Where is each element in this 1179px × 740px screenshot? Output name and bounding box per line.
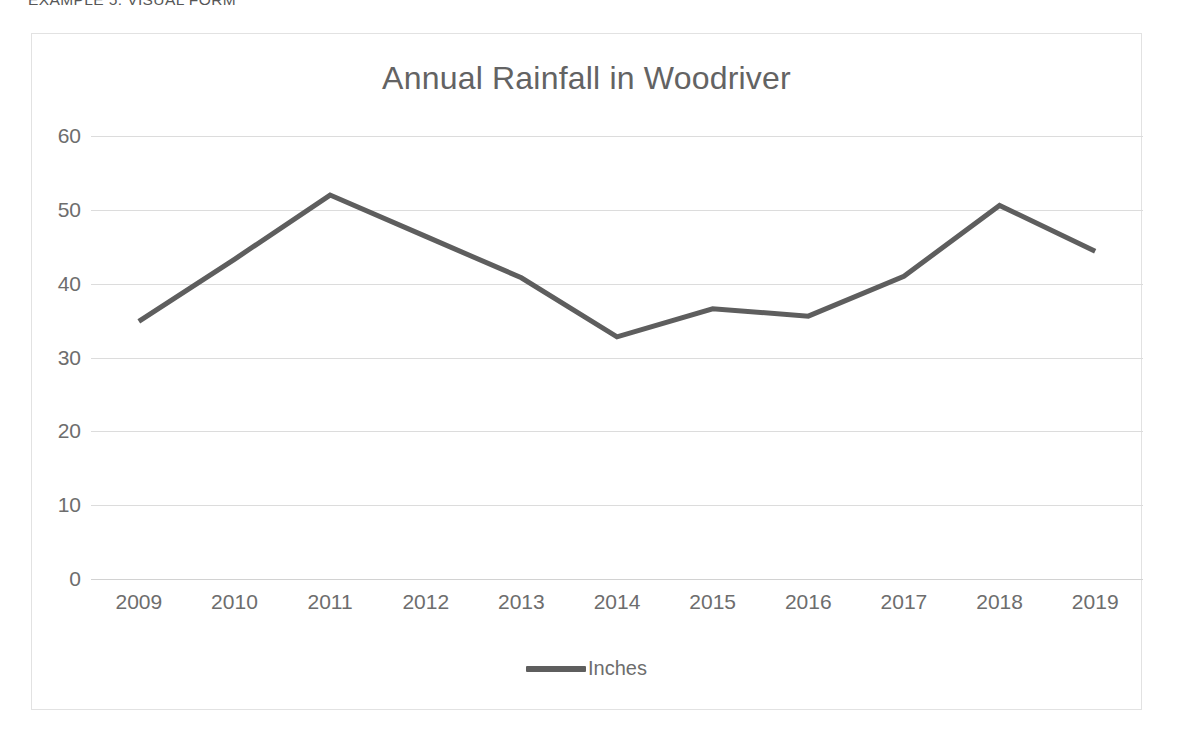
y-tick-label-60: 60 [32,124,81,148]
x-tick-label-2017: 2017 [856,590,952,626]
x-tick-label-2018: 2018 [952,590,1048,626]
y-tick-label-10: 10 [32,493,81,517]
x-tick-label-2013: 2013 [474,590,570,626]
x-tick-label-2012: 2012 [378,590,474,626]
y-tick-label-50: 50 [32,198,81,222]
legend-label: Inches [588,657,647,680]
legend-item-inches: Inches [526,657,647,680]
y-axis-labels: 0102030405060 [32,136,81,579]
y-tick-label-30: 30 [32,346,81,370]
gridline-0 [91,579,1143,580]
y-tick-label-20: 20 [32,419,81,443]
series-line-inches [139,195,1095,337]
x-tick-label-2014: 2014 [569,590,665,626]
plot-area [91,136,1143,579]
chart-container: Annual Rainfall in Woodriver 01020304050… [31,33,1142,710]
chart-title: Annual Rainfall in Woodriver [32,60,1141,97]
page-heading: EXAMPLE 5: VISUAL FORM [28,0,236,9]
x-tick-label-2015: 2015 [665,590,761,626]
x-tick-label-2016: 2016 [760,590,856,626]
y-tick-label-40: 40 [32,272,81,296]
x-tick-label-2019: 2019 [1047,590,1143,626]
x-axis-labels: 2009201020112012201320142015201620172018… [91,590,1143,626]
y-tick-label-0: 0 [32,567,81,591]
chart-legend: Inches [32,657,1141,680]
x-tick-label-2009: 2009 [91,590,187,626]
x-tick-label-2011: 2011 [282,590,378,626]
line-series-svg [91,136,1143,579]
x-tick-label-2010: 2010 [187,590,283,626]
legend-line-swatch-icon [526,666,586,672]
